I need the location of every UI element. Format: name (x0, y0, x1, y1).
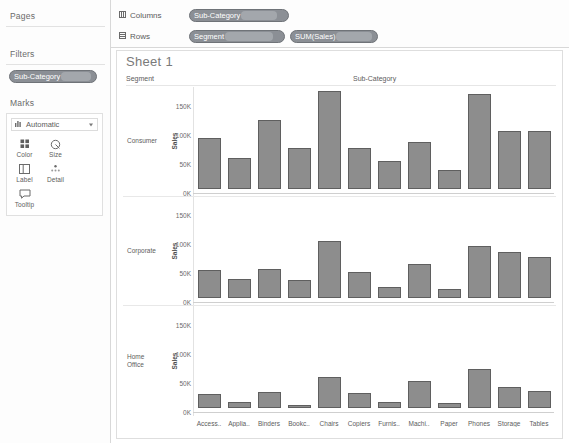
bar[interactable] (318, 91, 341, 189)
marks-button-tooltip[interactable]: Tooltip (9, 186, 40, 211)
y-axis-ticks: 0K50K100K150K (171, 197, 193, 306)
filters-shelf[interactable]: Filters Sub-Category (0, 49, 111, 83)
x-axis-label[interactable]: Furnis.. (374, 420, 404, 427)
x-axis-label[interactable]: Machi.. (404, 420, 434, 427)
bar[interactable] (348, 272, 371, 298)
bar-slot (284, 197, 314, 299)
bar[interactable] (228, 279, 251, 299)
x-axis-label[interactable]: Access.. (194, 420, 224, 427)
y-axis-tick: 0K (183, 408, 191, 415)
bar[interactable] (318, 377, 341, 408)
marks-button-color-label: Color (16, 151, 32, 158)
bar-slot (254, 306, 284, 408)
marks-button-size[interactable]: Size (40, 136, 71, 161)
columns-shelf[interactable]: Columns Sub-Category (111, 5, 289, 25)
bar[interactable] (318, 241, 341, 298)
marks-button-label-label: Label (16, 176, 32, 183)
bar-slot (314, 87, 344, 189)
bar[interactable] (198, 270, 221, 298)
filters-divider (6, 64, 105, 65)
bar-slot (284, 306, 314, 408)
bar[interactable] (498, 252, 521, 298)
viz-canvas[interactable]: Sheet 1 Segment Sub-Category ConsumerSal… (116, 50, 563, 439)
bar[interactable] (258, 269, 281, 298)
left-sidebar: Pages Filters Sub-Category Marks (0, 0, 111, 443)
header-divider (126, 85, 556, 86)
x-axis-label[interactable]: Phones (464, 420, 494, 427)
bar[interactable] (378, 402, 401, 408)
x-axis-baseline (193, 302, 554, 303)
bar[interactable] (438, 170, 461, 189)
y-axis-tick: 150K (176, 102, 191, 109)
bar-slot (194, 197, 224, 299)
page-title: Sheet 1 (126, 54, 173, 69)
bar[interactable] (228, 402, 251, 408)
bar-slot (404, 306, 434, 408)
marks-button-color[interactable]: Color (9, 136, 40, 161)
bar[interactable] (258, 120, 281, 189)
bar-slot (344, 306, 374, 408)
rows-shelf[interactable]: Rows Segment SUM(Sales) (111, 26, 378, 46)
row-pill-segment[interactable]: Segment (189, 30, 285, 43)
column-pill-sub-category[interactable]: Sub-Category (189, 9, 289, 22)
pages-shelf[interactable]: Pages (0, 11, 111, 27)
pages-divider (6, 26, 105, 27)
tableau-worksheet-window: Pages Filters Sub-Category Marks (0, 0, 569, 443)
tooltip-bubble-icon (19, 188, 31, 200)
chart-panel: Home OfficeSales0K50K100K150K (123, 306, 556, 416)
filter-pill-sub-category[interactable]: Sub-Category (9, 70, 97, 83)
bar[interactable] (498, 387, 521, 408)
bar-slot (464, 197, 494, 299)
bar[interactable] (258, 392, 281, 408)
x-axis-label[interactable]: Chairs (314, 420, 344, 427)
pill-tail (336, 32, 372, 41)
marks-button-label[interactable]: Label (9, 161, 40, 186)
x-axis-label[interactable]: Storage (494, 420, 524, 427)
y-axis-tick: 0K (183, 299, 191, 306)
x-axis-label[interactable]: Tables (524, 420, 554, 427)
bar[interactable] (468, 369, 491, 408)
bar[interactable] (468, 94, 491, 189)
columns-label: Columns (130, 11, 162, 20)
bar[interactable] (378, 287, 401, 298)
bar-slot (374, 197, 404, 299)
x-axis-label[interactable]: Applia.. (224, 420, 254, 427)
bar[interactable] (408, 142, 431, 188)
x-axis-label[interactable]: Bookc.. (284, 420, 314, 427)
bar[interactable] (288, 148, 311, 189)
bar[interactable] (288, 405, 311, 408)
bar[interactable] (528, 391, 551, 408)
pill-tail (61, 72, 91, 81)
x-axis-label[interactable]: Paper (434, 420, 464, 427)
columns-pills: Sub-Category (189, 9, 289, 22)
color-squares-icon (20, 138, 30, 150)
bar[interactable] (528, 257, 551, 298)
bar[interactable] (498, 131, 521, 189)
bar[interactable] (408, 264, 431, 298)
marks-button-detail[interactable]: Detail (40, 161, 71, 186)
x-axis-label[interactable]: Copiers (344, 420, 374, 427)
row-pill-sum-sales[interactable]: SUM(Sales) (290, 30, 378, 43)
bar-slot (284, 87, 314, 189)
bar-slot (344, 87, 374, 189)
bar[interactable] (228, 158, 251, 188)
bar[interactable] (378, 161, 401, 189)
bar[interactable] (198, 394, 221, 408)
mark-type-dropdown[interactable]: Automatic (11, 118, 98, 131)
bar[interactable] (198, 138, 221, 189)
column-field-header: Sub-Category (353, 75, 396, 82)
bar[interactable] (408, 381, 431, 408)
bar[interactable] (288, 280, 311, 298)
bar[interactable] (438, 403, 461, 408)
y-axis-tick: 150K (176, 321, 191, 328)
bar[interactable] (348, 393, 371, 408)
x-axis-label[interactable]: Binders (254, 420, 284, 427)
bar-slot (254, 87, 284, 189)
bar[interactable] (438, 289, 461, 298)
bar-slot (224, 306, 254, 408)
bar[interactable] (528, 131, 551, 189)
y-axis-ticks: 0K50K100K150K (171, 306, 193, 416)
bar[interactable] (348, 148, 371, 189)
bar[interactable] (468, 246, 491, 298)
y-axis-tick: 100K (176, 131, 191, 138)
